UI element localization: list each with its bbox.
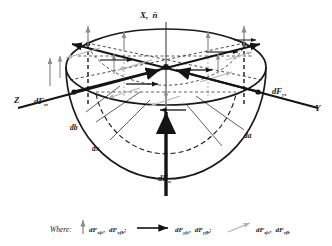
label-dx: dx [92, 144, 100, 153]
hemisphere-force-diagram: X, n̄ Z Y dFzτ dFyτ dFn db dx da Where: … [0, 0, 332, 246]
label-axis-z: Z [13, 95, 20, 105]
label-axis-x: X, n̄ [139, 10, 158, 20]
legend-where-label: Where: [50, 225, 72, 234]
label-da: da [244, 131, 252, 140]
label-db: db [70, 123, 78, 132]
center-node [163, 64, 169, 70]
